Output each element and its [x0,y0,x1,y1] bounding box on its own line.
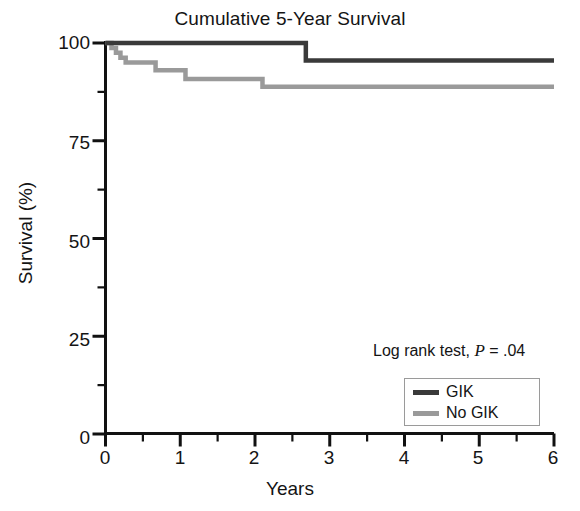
survival-chart-figure: Cumulative 5-Year Survival Survival (%) … [0,0,580,511]
plot-area [0,0,580,511]
legend-label-gik: GIK [446,384,474,400]
log-rank-annotation: Log rank test, P = .04 [373,341,525,361]
series-line-gik [106,43,555,61]
legend: GIK No GIK [404,378,540,426]
legend-swatch-no-gik [413,411,439,416]
annotation-p-symbol: P [474,341,484,360]
legend-entry-no-gik: No GIK [413,402,498,424]
x-axis-ticks [106,434,555,447]
annotation-suffix: = .04 [485,342,525,359]
legend-label-no-gik: No GIK [446,405,498,421]
series-line-no-gik [106,43,555,87]
annotation-prefix: Log rank test, [373,342,474,359]
y-axis-ticks [93,43,106,434]
legend-entry-gik: GIK [413,381,474,403]
legend-swatch-gik [413,390,439,395]
